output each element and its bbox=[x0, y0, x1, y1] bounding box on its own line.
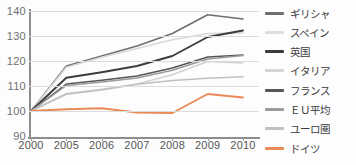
legend-color-swatch-icon bbox=[265, 127, 284, 130]
legend-item[interactable]: ユーロ圏 bbox=[265, 122, 330, 136]
gridline bbox=[29, 11, 259, 12]
plot-area bbox=[29, 11, 259, 136]
legend-item[interactable]: フランス bbox=[265, 83, 330, 97]
x-axis-tickmark bbox=[137, 137, 138, 141]
gridline bbox=[29, 111, 259, 112]
legend-color-swatch-icon bbox=[265, 69, 284, 72]
gridline bbox=[29, 36, 259, 37]
gridline bbox=[29, 61, 259, 62]
legend-color-swatch-icon bbox=[265, 31, 284, 34]
series-line bbox=[31, 55, 243, 111]
x-axis-tickmark bbox=[208, 137, 209, 141]
y-axis-tick-label: 120 bbox=[7, 55, 26, 67]
legend-label: ユーロ圏 bbox=[290, 121, 330, 136]
x-axis-tickmark bbox=[172, 137, 173, 141]
legend-item[interactable]: スペイン bbox=[265, 25, 329, 39]
y-axis-tick-label: 140 bbox=[7, 5, 26, 17]
line-chart: 90100110120130140 ギリシャスペイン英国イタリアフランスＥＵ平均… bbox=[0, 0, 356, 165]
legend-label: ドイツ bbox=[290, 141, 320, 156]
legend-color-swatch-icon bbox=[265, 12, 284, 15]
legend-item[interactable]: ギリシャ bbox=[265, 6, 330, 20]
y-axis-labels: 90100110120130140 bbox=[0, 11, 26, 136]
legend-label: フランス bbox=[290, 83, 330, 98]
legend-label: 英国 bbox=[290, 44, 310, 59]
legend-color-swatch-icon bbox=[265, 108, 284, 111]
y-axis-tick-label: 130 bbox=[7, 30, 26, 42]
truncated-title bbox=[22, 0, 257, 8]
legend-color-swatch-icon bbox=[265, 50, 284, 53]
legend-item[interactable]: ＥＵ平均 bbox=[265, 103, 330, 117]
legend-label: スペイン bbox=[290, 25, 329, 40]
y-axis-tick-label: 110 bbox=[8, 80, 26, 92]
legend-item[interactable]: イタリア bbox=[265, 64, 330, 78]
series-lines bbox=[29, 11, 259, 136]
gridline bbox=[29, 86, 259, 87]
x-axis-tickmark bbox=[31, 137, 32, 141]
x-axis-tickmark bbox=[243, 137, 244, 141]
legend-item[interactable]: 英国 bbox=[265, 45, 310, 59]
legend-label: ＥＵ平均 bbox=[290, 102, 330, 117]
legend-label: イタリア bbox=[290, 63, 330, 78]
legend: ギリシャスペイン英国イタリアフランスＥＵ平均ユーロ圏ドイツ bbox=[265, 6, 356, 158]
legend-color-swatch-icon bbox=[265, 89, 284, 92]
y-axis-tick-label: 100 bbox=[7, 105, 26, 117]
series-line bbox=[31, 33, 243, 111]
x-axis-tickmark bbox=[66, 137, 67, 141]
legend-color-swatch-icon bbox=[265, 147, 284, 150]
x-axis-tickmark bbox=[102, 137, 103, 141]
legend-label: ギリシャ bbox=[290, 6, 330, 21]
legend-item[interactable]: ドイツ bbox=[265, 141, 320, 155]
